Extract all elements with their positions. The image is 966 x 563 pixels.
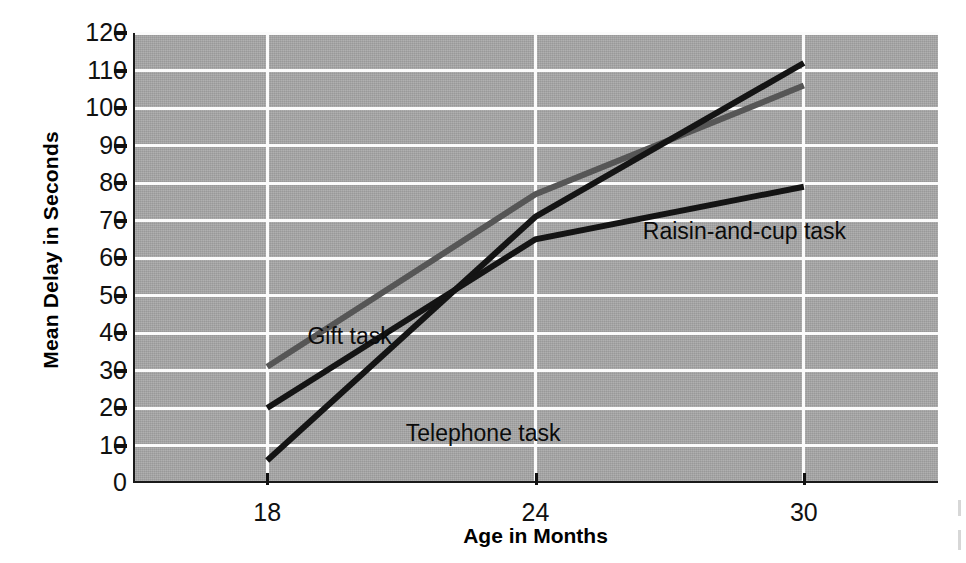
x-axis-tick-label: 18 (222, 500, 312, 525)
y-axis-tick-mark (114, 106, 127, 110)
x-axis-tick-mark (266, 473, 269, 485)
y-axis-tick-mark (114, 294, 127, 298)
y-axis-tick-mark (114, 331, 127, 335)
x-axis-tick-label: 24 (491, 500, 581, 525)
y-axis-title: Mean Delay in Seconds (39, 120, 63, 380)
scan-artifact (958, 530, 961, 550)
series-lines (133, 33, 938, 483)
series-label: Raisin-and-cup task (643, 220, 846, 243)
y-axis-tick-mark (114, 181, 127, 185)
y-axis-tick-mark (114, 256, 127, 260)
series-label: Telephone task (406, 422, 561, 445)
y-axis-tick-label: 0 (67, 470, 127, 495)
plot-area: Gift taskTelephone taskRaisin-and-cup ta… (133, 33, 938, 483)
x-axis-title: Age in Months (133, 524, 938, 548)
chart-container: 0102030405060708090100110120 Mean Delay … (0, 0, 966, 563)
scan-artifact (958, 500, 961, 516)
y-axis-tick-mark (114, 144, 127, 148)
series-label: Gift task (307, 325, 391, 348)
y-axis-tick-mark (114, 219, 127, 223)
y-axis-tick-mark (114, 406, 127, 410)
y-axis-tick-group: 0102030405060708090100110120 (55, 0, 127, 563)
series-line (267, 63, 804, 461)
y-axis-tick-mark (114, 444, 127, 448)
y-axis-tick-mark (114, 69, 127, 73)
x-axis-tick-mark (535, 473, 538, 485)
y-axis-tick-mark (114, 31, 127, 35)
y-axis-tick-mark (114, 369, 127, 373)
x-axis-tick-mark (803, 473, 806, 485)
x-axis-tick-label: 30 (759, 500, 849, 525)
